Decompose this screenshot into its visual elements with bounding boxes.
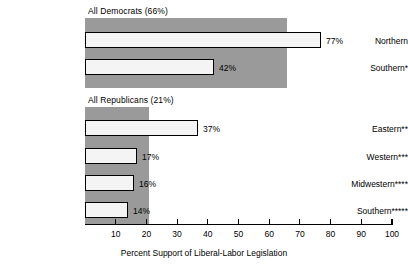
- democrats-band: [85, 18, 287, 88]
- x-axis-tick: [391, 219, 392, 225]
- x-axis-tick-label: 50: [224, 229, 254, 239]
- category-label-democrats-southern: Southern*: [330, 63, 408, 73]
- democrats-group-header: All Democrats (66%): [88, 6, 168, 16]
- bar-value-republicans-southern: 14%: [133, 206, 150, 216]
- x-axis-tick-label: 60: [254, 229, 284, 239]
- x-axis-tick-label: 80: [316, 229, 346, 239]
- bar-value-democrats-northern: 77%: [326, 36, 343, 46]
- x-axis-tick-label: 70: [285, 229, 315, 239]
- bar-democrats-southern: [85, 59, 214, 75]
- x-axis-tick: [238, 219, 239, 225]
- bar-value-republicans-eastern: 37%: [203, 124, 220, 134]
- bar-value-democrats-southern: 42%: [219, 63, 236, 73]
- bar-republicans-southern: [85, 202, 128, 218]
- x-axis-tick: [146, 219, 147, 225]
- category-label-western: Western***: [328, 152, 408, 162]
- x-axis-tick-label: 30: [162, 229, 192, 239]
- bar-republicans-midwestern: [85, 175, 134, 191]
- x-axis-tick: [299, 219, 300, 225]
- x-axis-tick-label: 40: [193, 229, 223, 239]
- x-axis-tick-label: 100: [377, 229, 407, 239]
- x-axis-tick: [269, 219, 270, 225]
- x-axis-tick: [361, 219, 362, 225]
- category-label-midwestern: Midwestern****: [328, 179, 408, 189]
- x-axis-tick: [330, 219, 331, 225]
- x-axis-tick-label: 20: [131, 229, 161, 239]
- category-label-republicans-southern: Southern*****: [328, 206, 408, 216]
- x-axis-tick-label: 90: [346, 229, 376, 239]
- republicans-group-header: All Republicans (21%): [88, 95, 174, 105]
- bar-chart: All Democrats (66%) Northern 77% Souther…: [0, 0, 408, 268]
- x-axis-title: Percent Support of Liberal-Labor Legisla…: [0, 248, 408, 258]
- bar-republicans-western: [85, 148, 137, 164]
- bar-value-republicans-midwestern: 16%: [139, 179, 156, 189]
- x-axis-tick-label: 10: [101, 229, 131, 239]
- category-label-eastern: Eastern**: [328, 124, 408, 134]
- bar-republicans-eastern: [85, 120, 198, 136]
- x-axis-tick: [115, 219, 116, 225]
- bar-value-republicans-western: 17%: [142, 152, 159, 162]
- bar-democrats-northern: [85, 32, 321, 48]
- x-axis-tick: [177, 219, 178, 225]
- x-axis-tick: [207, 219, 208, 225]
